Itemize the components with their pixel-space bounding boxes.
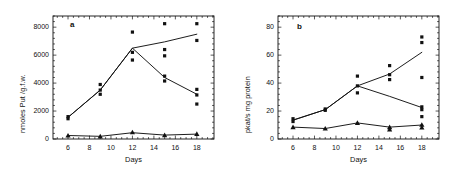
panel-a-x-tick-label: 14 bbox=[144, 144, 164, 151]
panel-a-x-tick-label: 10 bbox=[101, 144, 121, 151]
panel-b-y-axis-title: pkat/s mg protein bbox=[243, 76, 252, 133]
panel-a-x-tick-label: 8 bbox=[79, 144, 99, 151]
chart-panel-b: pkat/s mg protein Days b 020406080681012… bbox=[225, 0, 450, 179]
panel-a-y-axis-title: nmoles Put /g.f.w. bbox=[18, 74, 27, 133]
panel-b-x-tick-label: 18 bbox=[412, 144, 432, 151]
panel-a-y-tick-label: 4000 bbox=[33, 79, 49, 86]
panel-b-x-tick-label: 16 bbox=[390, 144, 410, 151]
panel-a-x-axis-title: Days bbox=[53, 155, 214, 164]
panel-a-x-tick-label: 12 bbox=[122, 144, 142, 151]
panel-b-y-tick-label: 80 bbox=[266, 23, 274, 30]
panel-a-x-tick-label: 18 bbox=[187, 144, 207, 151]
panel-b-plot-area bbox=[225, 0, 450, 179]
panel-b-x-tick-label: 14 bbox=[369, 144, 389, 151]
panel-a-y-tick-label: 0 bbox=[45, 135, 49, 142]
panel-b-y-tick-label: 40 bbox=[266, 79, 274, 86]
panel-b-x-tick-label: 10 bbox=[326, 144, 346, 151]
panel-b-x-tick-label: 12 bbox=[347, 144, 367, 151]
chart-panel-a: nmoles Put /g.f.w. Days a 02000400060008… bbox=[0, 0, 225, 179]
panel-b-x-tick-label: 8 bbox=[304, 144, 324, 151]
panel-a-x-tick-label: 6 bbox=[58, 144, 78, 151]
panel-b-x-axis-title: Days bbox=[278, 155, 439, 164]
panel-a-x-tick-label: 16 bbox=[165, 144, 185, 151]
panel-b-y-tick-label: 20 bbox=[266, 107, 274, 114]
panel-b-x-tick-label: 6 bbox=[283, 144, 303, 151]
panel-a-y-tick-label: 6000 bbox=[33, 51, 49, 58]
figure-root: nmoles Put /g.f.w. Days a 02000400060008… bbox=[0, 0, 450, 179]
panel-b-y-tick-label: 0 bbox=[270, 135, 274, 142]
panel-b-label: b bbox=[297, 22, 302, 31]
panel-b-y-tick-label: 60 bbox=[266, 51, 274, 58]
panel-a-label: a bbox=[70, 20, 74, 29]
panel-a-y-tick-label: 8000 bbox=[33, 23, 49, 30]
panel-a-y-tick-label: 2000 bbox=[33, 107, 49, 114]
